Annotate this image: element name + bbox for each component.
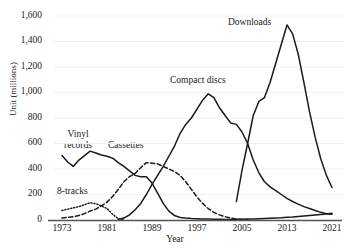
series-path-cassettes: [62, 163, 248, 220]
plot-area: [0, 0, 350, 249]
music-format-sales-chart: Unit (millions) Year 1,600 1,400 1,200 1…: [0, 0, 350, 249]
series-path-compact-discs: [118, 94, 332, 220]
series-lines: [62, 25, 332, 220]
series-path-vinyl-records: [62, 151, 332, 219]
series-path-downloads: [236, 25, 332, 202]
